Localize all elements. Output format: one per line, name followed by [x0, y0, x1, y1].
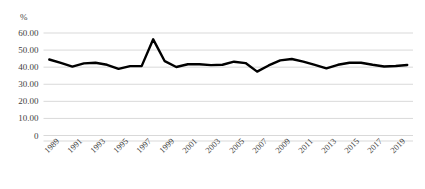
y-tick-label: 60.00 [0, 28, 39, 38]
y-tick-label: 30.00 [0, 79, 39, 89]
gridlines [44, 33, 414, 141]
plot-area [0, 0, 425, 189]
y-tick-label: 0 [0, 131, 39, 141]
y-tick-label: 40.00 [0, 62, 39, 72]
y-tick-label: 10.00 [0, 113, 39, 123]
y-tick-label: 20.00 [0, 96, 39, 106]
y-tick-label: 50.00 [0, 45, 39, 55]
line-chart: % 010.0020.0030.0040.0050.0060.00 198919… [0, 0, 425, 189]
